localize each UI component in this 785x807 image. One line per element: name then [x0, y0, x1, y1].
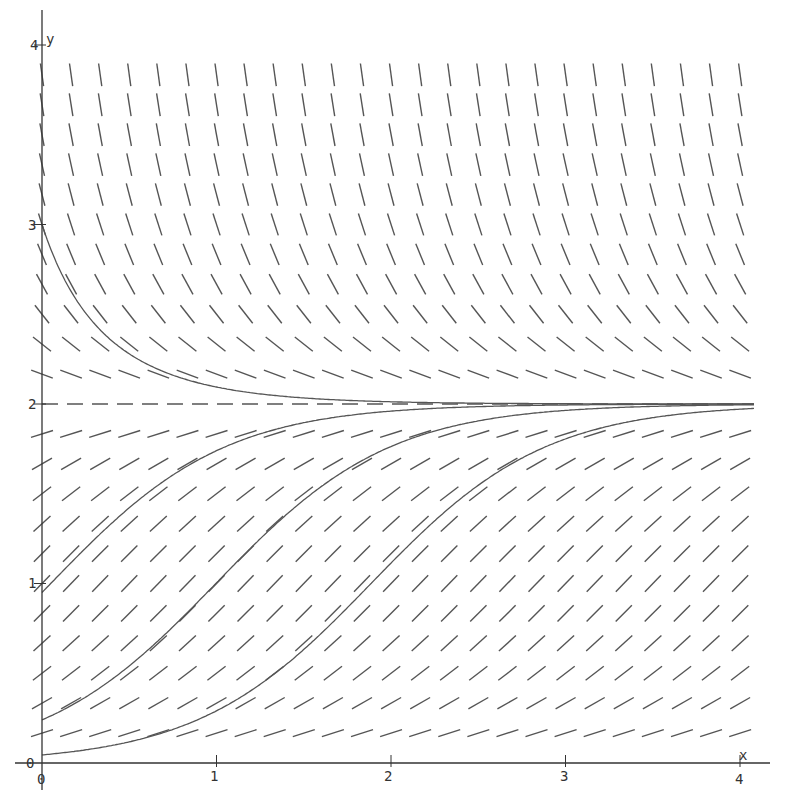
slope-segment [157, 64, 160, 87]
slope-segment [729, 730, 751, 737]
slope-segment [324, 636, 341, 652]
slope-segment [738, 93, 742, 116]
slope-segment [383, 546, 399, 562]
x-tick-label-3: 3 [560, 768, 568, 784]
slope-segment [354, 636, 371, 652]
slope-segment [528, 546, 544, 562]
slope-segment [300, 214, 307, 236]
slope-segment [622, 123, 626, 146]
slope-segment [642, 730, 664, 737]
slope-segment [678, 214, 685, 236]
slope-segment [237, 487, 255, 501]
slope-segment [613, 431, 635, 438]
slope-segment [497, 730, 519, 737]
slope-segment [149, 487, 167, 501]
slope-segment [270, 244, 279, 265]
slope-segment [302, 123, 306, 146]
slope-segment [710, 64, 713, 87]
slope-segment [352, 698, 372, 709]
slope-segment [67, 244, 76, 265]
slope-segment [388, 183, 394, 205]
slope-segment [265, 458, 285, 470]
slope-segment [269, 274, 280, 294]
slope-segment [475, 183, 481, 205]
slope-segment [99, 64, 102, 87]
slope-segment [439, 698, 459, 709]
slope-segment [475, 214, 482, 236]
slope-segment [444, 274, 455, 294]
slope-segment [470, 605, 486, 621]
slope-segment [701, 698, 721, 709]
slope-segment [614, 698, 634, 709]
slope-segment [476, 123, 480, 146]
slope-segment [650, 183, 656, 205]
slope-segment [331, 93, 335, 116]
slope-segment [440, 337, 458, 351]
slope-segment [591, 214, 598, 236]
slope-segment [185, 183, 191, 205]
slope-segment [119, 370, 141, 378]
slope-segment [214, 123, 218, 146]
slope-segment [651, 123, 655, 146]
slope-segment [150, 516, 167, 532]
slope-segment [272, 183, 278, 205]
slope-segment [672, 458, 692, 470]
slope-segment [69, 153, 74, 176]
slope-segment [63, 636, 80, 652]
slope-segment [616, 605, 632, 621]
slope-segment [561, 244, 570, 265]
slope-segment [732, 516, 749, 532]
axis-ticks [34, 45, 740, 767]
slope-segment [468, 458, 488, 470]
slope-segment [702, 337, 720, 351]
slope-segment [122, 305, 136, 323]
x-tick-label-4: 4 [735, 771, 743, 787]
slope-segment [179, 605, 195, 621]
slope-segment [593, 93, 597, 116]
slope-segment [736, 244, 745, 265]
slope-segment [477, 93, 481, 116]
slope-segment [183, 244, 192, 265]
slope-segment [214, 183, 220, 205]
slope-segment [409, 370, 431, 378]
slope-segment [735, 274, 746, 294]
slope-segment [384, 305, 398, 323]
slope-segment [177, 370, 199, 378]
slope-segment [322, 431, 344, 438]
slope-segment [149, 666, 167, 680]
y-axis-label: y [46, 31, 54, 47]
slope-segment [244, 123, 248, 146]
slope-segment [62, 487, 80, 501]
slope-segment [477, 64, 480, 87]
slope-segment [148, 370, 170, 378]
slope-segment [615, 516, 632, 532]
slope-segment [409, 431, 431, 438]
slope-segment [701, 458, 721, 470]
slope-segment [267, 575, 283, 592]
slope-segment [90, 458, 110, 470]
slope-segment [61, 458, 81, 470]
slope-segment [128, 93, 132, 116]
slope-segment [470, 546, 486, 562]
slope-segment [678, 244, 687, 265]
slope-segment [476, 153, 481, 176]
slope-segment [418, 153, 423, 176]
slope-segment [351, 431, 373, 438]
slope-segment [68, 183, 74, 205]
slope-segment [118, 431, 140, 438]
slope-segment [559, 305, 573, 323]
slope-segment [235, 370, 257, 378]
slope-segment [534, 153, 539, 176]
slope-segment [383, 605, 399, 621]
slope-segment [645, 575, 661, 592]
slope-segment [389, 123, 393, 146]
slope-segment [178, 487, 196, 501]
slope-segment [296, 546, 312, 562]
slope-segment [592, 153, 597, 176]
slope-segment [533, 214, 540, 236]
slope-segment [613, 370, 635, 378]
slope-segment [208, 605, 224, 621]
slope-segment [381, 458, 401, 470]
slope-segment [412, 575, 428, 592]
slope-segment [266, 487, 284, 501]
